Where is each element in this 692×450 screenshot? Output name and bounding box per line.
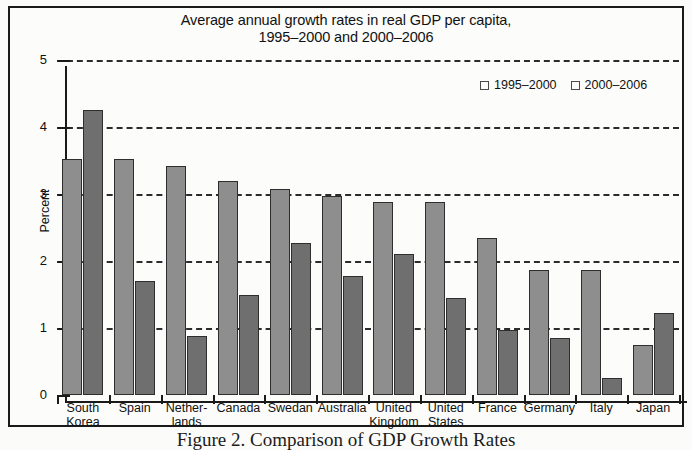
x-axis-label-swedan: Swedan xyxy=(264,401,316,415)
bar-group xyxy=(166,60,207,395)
y-axis-title: Percent xyxy=(38,166,52,256)
x-axis-label-line: Germany xyxy=(524,401,576,415)
bar xyxy=(654,313,674,395)
x-axis-label-line: South xyxy=(57,401,109,415)
x-axis-label-line: Japan xyxy=(627,401,679,415)
figure-root: Average annual growth rates in real GDP … xyxy=(0,0,692,450)
bar xyxy=(425,202,445,395)
bar xyxy=(187,336,207,395)
chart-title-line-2: 1995–2000 and 2000–2006 xyxy=(10,29,682,46)
bar xyxy=(83,110,103,395)
y-tick-label-1: 1 xyxy=(25,320,47,335)
bar-group xyxy=(529,60,570,395)
bar-group xyxy=(218,60,259,395)
x-axis-label-line: States xyxy=(420,415,472,429)
bar xyxy=(602,378,622,395)
bar xyxy=(529,270,549,395)
bar xyxy=(291,243,311,395)
x-tick-mark xyxy=(679,395,681,404)
x-axis-label-line: Korea xyxy=(57,415,109,429)
bar xyxy=(322,196,342,395)
bar-group xyxy=(425,60,466,395)
bar xyxy=(114,159,134,395)
y-tick-label-5: 5 xyxy=(25,52,47,67)
bar-group xyxy=(581,60,622,395)
chart-title: Average annual growth rates in real GDP … xyxy=(10,12,682,46)
bar xyxy=(373,202,393,395)
x-axis-label-line: United xyxy=(420,401,472,415)
bar xyxy=(218,181,238,395)
x-axis-label-canada: Canada xyxy=(213,401,265,415)
bar-group xyxy=(373,60,414,395)
x-axis-label-line: Italy xyxy=(575,401,627,415)
bar xyxy=(135,281,155,395)
bar xyxy=(343,276,363,395)
bar-group xyxy=(270,60,311,395)
x-axis-label-italy: Italy xyxy=(575,401,627,415)
chart-title-line-1: Average annual growth rates in real GDP … xyxy=(10,12,682,29)
x-axis-label-france: France xyxy=(472,401,524,415)
bar xyxy=(581,270,601,395)
bar-group xyxy=(322,60,363,395)
plot-area xyxy=(57,60,679,395)
x-axis-label-line: Spain xyxy=(109,401,161,415)
bar-group xyxy=(114,60,155,395)
bar-group xyxy=(62,60,103,395)
y-tick-mark-0 xyxy=(58,395,70,397)
x-axis-label-japan: Japan xyxy=(627,401,679,415)
bar xyxy=(446,298,466,395)
chart-frame: Average annual growth rates in real GDP … xyxy=(8,6,684,427)
x-axis-label-australia: Australia xyxy=(316,401,368,415)
y-tick-label-4: 4 xyxy=(25,119,47,134)
bar xyxy=(394,254,414,395)
y-tick-label-0: 0 xyxy=(25,387,47,402)
y-tick-label-3: 3 xyxy=(25,186,47,201)
x-axis-label-line: Canada xyxy=(213,401,265,415)
x-axis-label-line: Australia xyxy=(316,401,368,415)
x-axis-label-germany: Germany xyxy=(524,401,576,415)
x-axis-label-south-korea: SouthKorea xyxy=(57,401,109,429)
x-axis-label-line: Nether- xyxy=(161,401,213,415)
bar xyxy=(633,345,653,395)
x-axis-label-line: France xyxy=(472,401,524,415)
x-axis-label-netherlands: Nether-lands xyxy=(161,401,213,429)
x-axis-label-line: lands xyxy=(161,415,213,429)
bar xyxy=(270,189,290,395)
x-axis-label-line: United xyxy=(368,401,420,415)
y-tick-label-2: 2 xyxy=(25,253,47,268)
bar xyxy=(477,238,497,395)
bar xyxy=(62,159,82,395)
bar xyxy=(239,295,259,396)
x-axis-label-spain: Spain xyxy=(109,401,161,415)
x-axis-label-united-states: UnitedStates xyxy=(420,401,472,429)
bar-group xyxy=(633,60,674,395)
bar-group xyxy=(477,60,518,395)
bar xyxy=(498,330,518,395)
bar xyxy=(166,166,186,395)
x-axis-label-united-kingdom: UnitedKingdom xyxy=(368,401,420,429)
figure-caption: Figure 2. Comparison of GDP Growth Rates xyxy=(0,429,692,450)
x-axis-label-line: Swedan xyxy=(264,401,316,415)
bar xyxy=(550,338,570,395)
x-axis-label-line: Kingdom xyxy=(368,415,420,429)
